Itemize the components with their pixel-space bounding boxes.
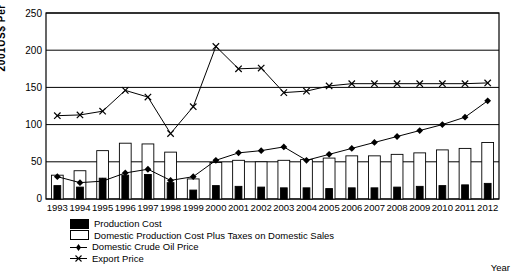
- chart-container: 2001US$ Per Tonne 250 200 150 100 50 0 Y…: [0, 0, 518, 279]
- legend-label: Export Price: [92, 253, 144, 265]
- chart-legend: Production Cost Domestic Production Cost…: [70, 218, 334, 264]
- legend-label: Domestic Crude Oil Price: [92, 241, 199, 253]
- x-axis-title: Year: [491, 262, 510, 273]
- filled-square-icon: [70, 219, 89, 229]
- legend-item-production-cost: Production Cost: [70, 218, 334, 230]
- legend-item-domestic-production-cost-plus-taxes: Domestic Production Cost Plus Taxes on D…: [70, 230, 334, 242]
- legend-label: Production Cost: [94, 218, 162, 230]
- legend-item-export-price: Export Price: [70, 253, 334, 265]
- legend-label: Domestic Production Cost Plus Taxes on D…: [94, 230, 334, 242]
- legend-item-domestic-crude-oil-price: Domestic Crude Oil Price: [70, 241, 334, 253]
- diamond-line-icon: [70, 243, 87, 251]
- open-square-icon: [70, 230, 89, 240]
- x-tick-2012: 2012: [473, 202, 503, 213]
- x-line-icon: [70, 254, 87, 262]
